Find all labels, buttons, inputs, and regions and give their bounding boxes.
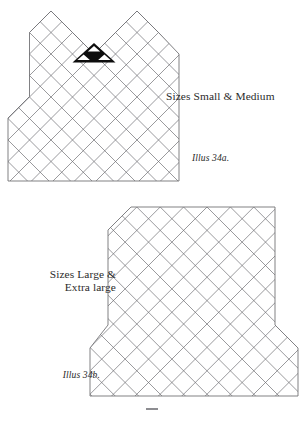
label-illus-34b: Illus 34b. xyxy=(24,369,100,380)
label-sizes-small-medium: Sizes Small & Medium xyxy=(166,90,275,103)
diagram-illus-34a xyxy=(0,11,307,226)
label-illus-34a: Illus 34a. xyxy=(192,152,229,163)
lattice-lines xyxy=(0,207,307,421)
pattern-diagrams-canvas xyxy=(0,0,307,421)
lattice-lines xyxy=(0,11,307,226)
footer-rule-mark xyxy=(146,408,158,410)
label-sizes-large-extra-large: Sizes Large & Extra large xyxy=(12,268,116,295)
diagram-illus-34b xyxy=(0,207,307,421)
sierpinski-triangle-motif xyxy=(73,43,116,63)
silhouette-outline-34b xyxy=(90,207,298,396)
illustration-page: Sizes Small & Medium Illus 34a. Sizes La… xyxy=(0,0,307,421)
